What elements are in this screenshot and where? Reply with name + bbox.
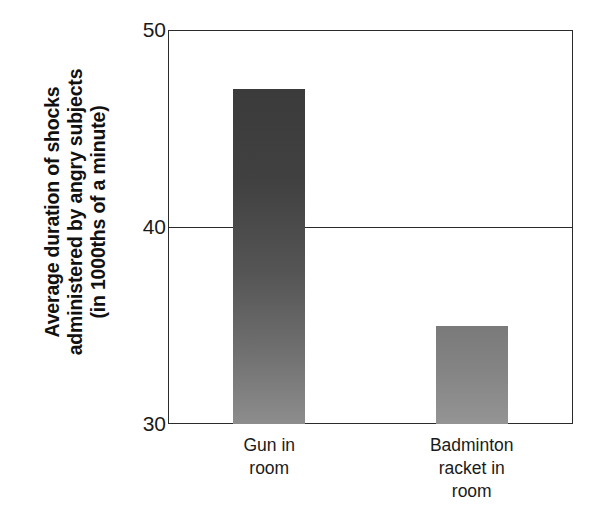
y-axis-title-line-3: (in 1000ths of a minute)	[87, 106, 110, 319]
bar-chart-figure: Average duration of shocks administered …	[0, 0, 602, 531]
x-category-label-gun-line-2: room	[179, 457, 359, 480]
bar-badminton-racket-in-room	[436, 326, 508, 425]
y-axis-title-line-2: administered by angry subjects	[64, 69, 87, 356]
x-category-label-badminton-line-1: Badminton	[382, 434, 562, 457]
y-axis-title-line-1: Average duration of shocks	[41, 87, 64, 338]
y-tick-label-40: 40	[126, 215, 166, 239]
x-category-label-gun: Gun in room	[179, 434, 359, 480]
bar-gun-in-room	[233, 89, 305, 424]
x-category-label-badminton-line-2: racket in	[382, 457, 562, 480]
x-category-label-badminton-line-3: room	[382, 480, 562, 503]
x-category-label-badminton: Badminton racket in room	[382, 434, 562, 503]
x-category-label-gun-line-1: Gun in	[179, 434, 359, 457]
y-tick-label-50: 50	[126, 18, 166, 42]
gridline-40	[168, 227, 573, 228]
y-tick-label-30: 30	[126, 412, 166, 436]
y-axis-title: Average duration of shocks administered …	[35, 22, 115, 402]
